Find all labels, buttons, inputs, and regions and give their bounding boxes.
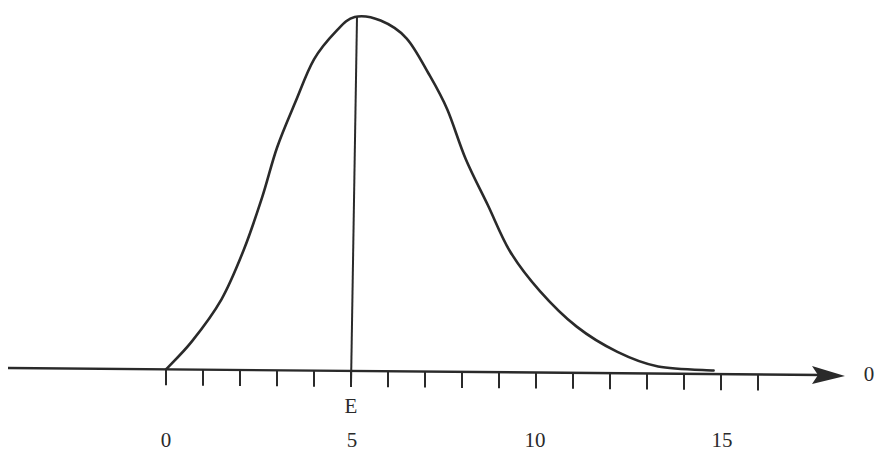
mean-marker-label: E: [345, 396, 358, 417]
axis-end-label: 0: [864, 364, 875, 385]
density-curve-chart: [0, 0, 881, 471]
x-tick-label-10: 10: [525, 430, 546, 451]
density-curve: [166, 16, 714, 370]
x-tick-label-0: 0: [161, 430, 172, 451]
x-tick-label-15: 15: [712, 430, 733, 451]
mean-line: [351, 17, 357, 385]
x-tick-label-5: 5: [347, 430, 358, 451]
